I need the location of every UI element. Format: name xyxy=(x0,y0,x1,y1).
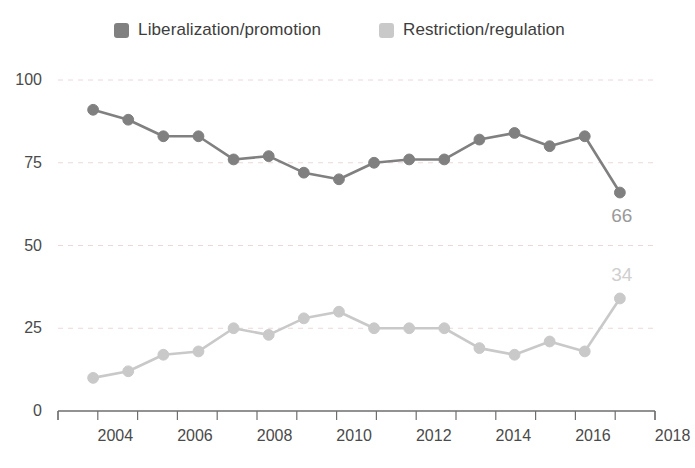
gridlines xyxy=(58,80,655,328)
data-point xyxy=(263,151,274,162)
data-point xyxy=(228,154,239,165)
data-point xyxy=(88,104,99,115)
data-point xyxy=(369,323,380,334)
x-tick-label-2006: 2006 xyxy=(165,427,225,445)
end-label-liberalization: 66 xyxy=(611,205,632,227)
series-line xyxy=(93,110,620,193)
y-tick-label-0: 0 xyxy=(0,402,42,420)
data-point xyxy=(334,306,345,317)
data-point xyxy=(614,293,625,304)
x-axis xyxy=(58,411,655,420)
data-point xyxy=(193,346,204,357)
x-tick-label-2004: 2004 xyxy=(85,427,145,445)
x-tick-label-2012: 2012 xyxy=(404,427,464,445)
x-tick-label-2014: 2014 xyxy=(483,427,543,445)
data-point xyxy=(404,154,415,165)
data-point xyxy=(263,329,274,340)
y-tick-label-25: 25 xyxy=(0,319,42,337)
data-point xyxy=(614,187,625,198)
data-point xyxy=(158,131,169,142)
data-point xyxy=(123,366,134,377)
x-tick-label-2008: 2008 xyxy=(245,427,305,445)
y-tick-label-50: 50 xyxy=(0,237,42,255)
data-point xyxy=(544,141,555,152)
data-point xyxy=(123,114,134,125)
data-point xyxy=(193,131,204,142)
data-point xyxy=(158,349,169,360)
data-point xyxy=(334,174,345,185)
data-point xyxy=(404,323,415,334)
data-point xyxy=(544,336,555,347)
data-point xyxy=(579,131,590,142)
y-tick-label-100: 100 xyxy=(0,71,42,89)
data-point xyxy=(298,167,309,178)
data-point xyxy=(439,154,450,165)
data-point xyxy=(439,323,450,334)
data-point xyxy=(228,323,239,334)
series-line xyxy=(93,298,620,377)
data-point xyxy=(509,349,520,360)
x-tick-label-2018: 2018 xyxy=(643,427,695,445)
data-point xyxy=(509,128,520,139)
data-point xyxy=(369,157,380,168)
data-point xyxy=(579,346,590,357)
x-tick-label-2016: 2016 xyxy=(563,427,623,445)
y-tick-label-75: 75 xyxy=(0,154,42,172)
series-liberalization xyxy=(88,104,626,198)
data-point xyxy=(298,313,309,324)
data-point xyxy=(88,373,99,384)
data-point xyxy=(474,343,485,354)
x-tick-label-2010: 2010 xyxy=(324,427,384,445)
series-restriction xyxy=(88,293,626,383)
end-label-restriction: 34 xyxy=(611,264,632,286)
data-point xyxy=(474,134,485,145)
